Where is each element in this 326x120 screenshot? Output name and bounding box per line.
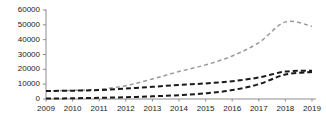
series-line-series-2 [46, 71, 312, 91]
x-axis-tick-label: 2012 [112, 105, 140, 113]
series-line-series-1 [46, 21, 312, 91]
x-axis-tick-label: 2016 [218, 105, 246, 113]
x-axis-tick-label: 2018 [271, 105, 299, 113]
y-axis-tick-label: 10000 [0, 80, 40, 88]
y-axis-tick-label: 20000 [0, 65, 40, 73]
x-axis-tick-label: 2009 [32, 105, 60, 113]
chart-axes [43, 10, 316, 102]
x-axis-tick-label: 2014 [165, 105, 193, 113]
x-axis-tick-label: 2017 [245, 105, 273, 113]
chart-series-group [46, 21, 312, 98]
x-axis-tick-label: 2010 [59, 105, 87, 113]
x-axis-tick-label: 2019 [298, 105, 326, 113]
y-axis-tick-label: 40000 [0, 36, 40, 44]
x-axis-tick-label: 2011 [85, 105, 113, 113]
y-axis-tick-label: 50000 [0, 21, 40, 29]
x-axis-tick-label: 2015 [192, 105, 220, 113]
x-axis-tick-label: 2013 [138, 105, 166, 113]
y-axis-tick-label: 60000 [0, 6, 40, 14]
y-axis-tick-label: 30000 [0, 51, 40, 59]
series-line-series-3 [46, 72, 312, 99]
y-axis-tick-label: 0 [0, 95, 40, 103]
